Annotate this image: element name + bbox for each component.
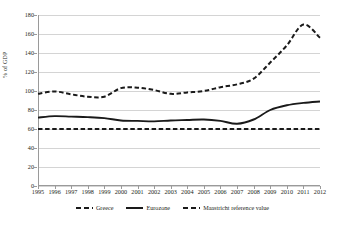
chart-legend: GreeceEurozoneMaastricht reference value xyxy=(0,205,345,211)
x-axis-tick-mark xyxy=(254,186,255,189)
y-axis-tick-label: 120 xyxy=(4,69,34,75)
y-axis-tick-mark xyxy=(34,34,37,35)
x-axis-tick-mark xyxy=(204,186,205,189)
x-axis-tick-label: 2012 xyxy=(314,189,326,195)
legend-swatch-dashed-icon xyxy=(76,207,93,209)
y-axis-tick-label: 60 xyxy=(4,126,34,132)
y-axis-tick-mark xyxy=(34,53,37,54)
y-axis-tick-mark xyxy=(34,91,37,92)
gridline xyxy=(38,186,320,187)
y-axis-tick-label: 20 xyxy=(4,164,34,170)
y-axis-tick-label: 160 xyxy=(4,31,34,37)
y-axis-tick-label: 40 xyxy=(4,145,34,151)
x-axis-tick-mark xyxy=(154,186,155,189)
legend-item[interactable]: Eurozone xyxy=(126,205,170,211)
plot-area xyxy=(38,15,320,186)
x-axis-tick-mark xyxy=(220,186,221,189)
y-axis-tick-mark xyxy=(34,186,37,187)
y-axis-tick-label: 180 xyxy=(4,12,34,18)
x-axis-tick-mark xyxy=(320,186,321,189)
y-axis-tick-label: 100 xyxy=(4,88,34,94)
x-axis-tick-label: 2001 xyxy=(131,189,143,195)
x-axis-tick-mark xyxy=(187,186,188,189)
x-axis-tick-label: 2005 xyxy=(198,189,210,195)
x-axis-tick-label: 2004 xyxy=(181,189,193,195)
y-axis-tick-mark xyxy=(34,15,37,16)
x-axis-tick-mark xyxy=(121,186,122,189)
x-axis-tick-label: 2006 xyxy=(214,189,226,195)
x-axis-tick-mark xyxy=(171,186,172,189)
legend-item[interactable]: Greece xyxy=(76,205,114,211)
series-layer xyxy=(38,15,320,186)
x-axis-tick-mark xyxy=(38,186,39,189)
x-axis-tick-label: 1996 xyxy=(48,189,60,195)
y-axis-tick-mark xyxy=(34,129,37,130)
x-axis-tick-label: 2007 xyxy=(231,189,243,195)
x-axis-tick-label: 2000 xyxy=(115,189,127,195)
x-axis-tick-mark xyxy=(270,186,271,189)
legend-label: Greece xyxy=(96,205,114,211)
x-axis-tick-label: 1995 xyxy=(32,189,44,195)
x-axis-tick-mark xyxy=(71,186,72,189)
x-axis-tick-mark xyxy=(55,186,56,189)
y-axis-tick-label: 80 xyxy=(4,107,34,113)
legend-item[interactable]: Maastricht reference value xyxy=(183,205,269,211)
y-axis-tick-mark xyxy=(34,148,37,149)
series-line-greece xyxy=(38,24,320,97)
x-axis-tick-labels: 1995199619971998199920002001200220032004… xyxy=(38,189,320,201)
legend-swatch-dashed-icon xyxy=(183,207,200,209)
x-axis-tick-mark xyxy=(138,186,139,189)
legend-label: Maastricht reference value xyxy=(203,205,269,211)
x-axis-tick-label: 1998 xyxy=(82,189,94,195)
chart-screenshot: % of GDP 020406080100120140160180 199519… xyxy=(0,0,345,226)
y-axis-tick-mark xyxy=(34,167,37,168)
series-line-eurozone xyxy=(38,101,320,123)
x-axis-tick-label: 2010 xyxy=(281,189,293,195)
legend-label: Eurozone xyxy=(146,205,170,211)
x-axis-tick-label: 2008 xyxy=(247,189,259,195)
x-axis-tick-mark xyxy=(287,186,288,189)
y-axis-tick-label: 0 xyxy=(4,183,34,189)
y-axis-tick-label: 140 xyxy=(4,50,34,56)
x-axis-tick-mark xyxy=(104,186,105,189)
x-axis-tick-label: 2003 xyxy=(165,189,177,195)
x-axis-tick-mark xyxy=(88,186,89,189)
x-axis-tick-label: 2002 xyxy=(148,189,160,195)
y-axis-tick-mark xyxy=(34,110,37,111)
x-axis-tick-mark xyxy=(237,186,238,189)
x-axis-tick-label: 2009 xyxy=(264,189,276,195)
y-axis-tick-mark xyxy=(34,72,37,73)
x-axis-tick-label: 1997 xyxy=(65,189,77,195)
x-axis-tick-label: 2011 xyxy=(297,189,309,195)
x-axis-tick-mark xyxy=(303,186,304,189)
legend-swatch-solid-icon xyxy=(126,207,143,209)
y-axis-tick-labels: 020406080100120140160180 xyxy=(0,15,34,186)
x-axis-tick-label: 1999 xyxy=(98,189,110,195)
